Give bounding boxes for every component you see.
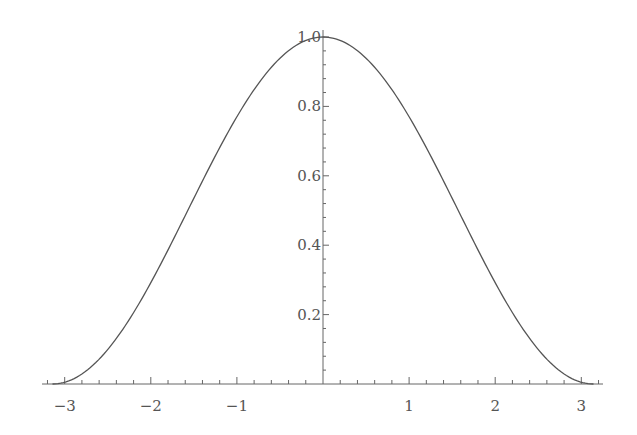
x-tick-labels: −3−2−1123 [54, 397, 586, 415]
x-tick-label: 1 [404, 397, 414, 415]
y-tick-label: 0.4 [297, 236, 321, 254]
y-tick-label: 0.2 [297, 306, 321, 324]
x-tick-label: 2 [490, 397, 500, 415]
x-tick-label: −1 [226, 397, 248, 415]
y-axis [323, 30, 329, 384]
y-tick-labels: 0.20.40.60.81.0 [297, 28, 321, 324]
x-tick-label: −3 [54, 397, 76, 415]
y-tick-label: 0.6 [297, 167, 321, 185]
x-tick-label: 3 [577, 397, 587, 415]
y-tick-label: 0.8 [297, 97, 321, 115]
cosine-chart: −3−2−1123 0.20.40.60.81.0 [0, 0, 637, 435]
x-tick-label: −2 [140, 397, 162, 415]
y-tick-label: 1.0 [297, 28, 321, 46]
